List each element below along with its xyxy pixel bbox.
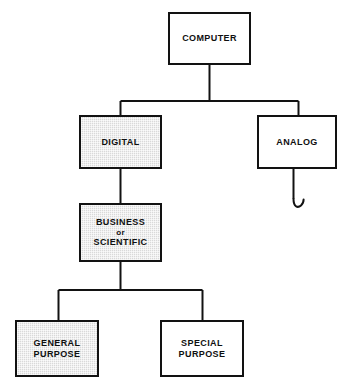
node-or-connector-label: or — [116, 228, 124, 237]
node-computer-label: COMPUTER — [182, 33, 237, 44]
node-general-purpose: GENERAL PURPOSE — [15, 320, 99, 377]
node-general-purpose-label-line1: GENERAL — [34, 338, 81, 349]
node-digital-label: DIGITAL — [101, 137, 139, 148]
computer-classification-diagram: COMPUTER DIGITAL ANALOG BUSINESS or SCIE… — [0, 0, 351, 386]
node-business-label: BUSINESS — [96, 217, 145, 228]
node-analog-label: ANALOG — [276, 137, 317, 148]
node-general-purpose-label-line2: PURPOSE — [34, 349, 81, 360]
node-business-or-scientific: BUSINESS or SCIENTIFIC — [79, 203, 162, 262]
continuation-curl-icon — [294, 199, 304, 207]
node-special-purpose: SPECIAL PURPOSE — [160, 320, 244, 377]
node-special-purpose-label-line1: SPECIAL — [181, 338, 223, 349]
node-scientific-label: SCIENTIFIC — [93, 237, 147, 248]
node-analog: ANALOG — [257, 115, 337, 169]
node-computer: COMPUTER — [168, 12, 251, 65]
node-digital: DIGITAL — [79, 115, 162, 169]
node-special-purpose-label-line2: PURPOSE — [179, 349, 226, 360]
